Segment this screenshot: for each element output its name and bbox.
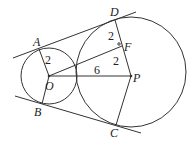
length-DF: 2 bbox=[108, 29, 114, 43]
large-circle-P bbox=[76, 17, 186, 127]
label-C: C bbox=[110, 126, 119, 140]
label-P: P bbox=[132, 71, 141, 85]
right-angle-marker-F bbox=[118, 43, 120, 45]
label-B: B bbox=[34, 105, 42, 119]
point-O bbox=[48, 75, 51, 78]
length-OP: 6 bbox=[94, 63, 100, 77]
point-P bbox=[130, 75, 133, 78]
label-O: O bbox=[45, 79, 54, 93]
label-F: F bbox=[123, 40, 132, 54]
length-OA: 2 bbox=[45, 53, 51, 67]
segment-PC bbox=[116, 76, 131, 125]
label-A: A bbox=[32, 35, 41, 49]
length-FP: 2 bbox=[113, 54, 119, 68]
geometry-diagram: D A B C O P F 2 2 2 6 bbox=[0, 0, 195, 149]
label-D: D bbox=[109, 5, 119, 19]
